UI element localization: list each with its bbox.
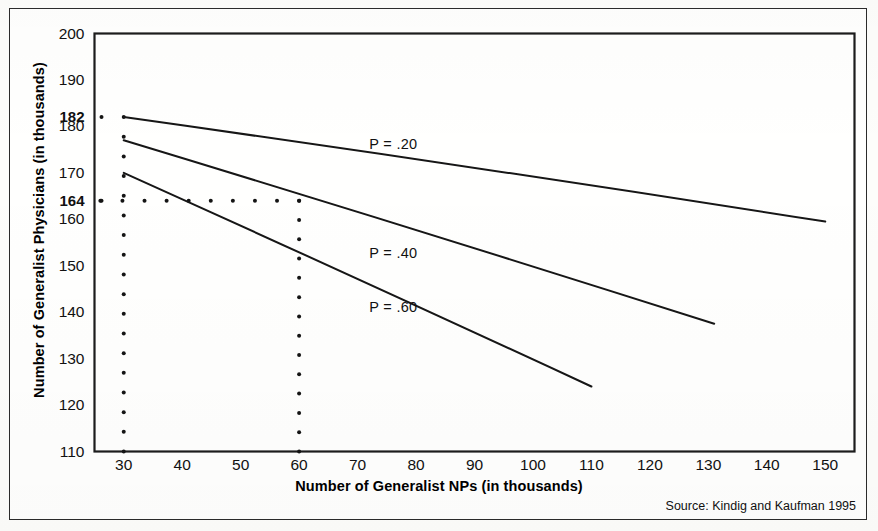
reference-dot-vertical-60 xyxy=(297,218,301,222)
reference-dot-vertical-30 xyxy=(122,194,126,198)
x-tick-label-50: 50 xyxy=(211,457,271,473)
reference-dot-vertical-60 xyxy=(297,237,301,241)
y-tick-label-170: 170 xyxy=(33,165,85,180)
reference-dot-vertical-30 xyxy=(122,371,126,375)
reference-dot-vertical-30 xyxy=(122,213,126,217)
x-tick-label-30: 30 xyxy=(94,457,154,473)
reference-dot-horizontal-164-outer xyxy=(100,199,104,203)
x-tick-label-100: 100 xyxy=(503,457,563,473)
trend-line-p-40 xyxy=(124,140,714,323)
reference-dot-vertical-30 xyxy=(122,233,126,237)
reference-dot-182-outer xyxy=(100,115,104,119)
x-tick-label-80: 80 xyxy=(386,457,446,473)
y-tick-label-200: 200 xyxy=(33,26,85,41)
x-tick-label-140: 140 xyxy=(737,457,797,473)
trend-line-p-20 xyxy=(124,117,826,222)
y-tick-label-160: 160 xyxy=(33,211,85,226)
reference-dot-horizontal-164 xyxy=(209,199,213,203)
reference-dot-vertical-60 xyxy=(297,295,301,299)
plot-frame xyxy=(95,34,855,452)
y-tick-label-164: 164 xyxy=(33,193,85,208)
reference-dot-vertical-30 xyxy=(122,390,126,394)
x-tick-label-130: 130 xyxy=(678,457,738,473)
trend-line-p-60 xyxy=(124,173,592,387)
reference-dot-vertical-60 xyxy=(297,372,301,376)
reference-dot-vertical-60 xyxy=(297,334,301,338)
y-tick-label-140: 140 xyxy=(33,304,85,319)
reference-dot-vertical-30 xyxy=(122,410,126,414)
reference-dot-vertical-30 xyxy=(122,272,126,276)
reference-dot-vertical-30 xyxy=(122,351,126,355)
y-tick-label-130: 130 xyxy=(33,351,85,366)
y-tick-label-150: 150 xyxy=(33,258,85,273)
reference-dot-vertical-60 xyxy=(297,257,301,261)
reference-dot-horizontal-164 xyxy=(165,199,169,203)
reference-dot-horizontal-164 xyxy=(231,199,235,203)
x-tick-label-90: 90 xyxy=(445,457,505,473)
reference-dot-vertical-30 xyxy=(122,450,126,454)
reference-dot-vertical-60 xyxy=(297,430,301,434)
curve-label-p-40: P = .40 xyxy=(369,245,417,261)
y-tick-label-190: 190 xyxy=(33,72,85,87)
reference-dot-vertical-30 xyxy=(122,135,126,139)
figure-container: Number of Generalist Physicians (in thou… xyxy=(0,0,878,531)
reference-dot-vertical-60 xyxy=(297,450,301,454)
y-tick-label-182: 182 xyxy=(33,109,85,124)
reference-dot-horizontal-164 xyxy=(253,199,257,203)
reference-dot-vertical-30 xyxy=(122,253,126,257)
reference-dot-vertical-30 xyxy=(122,154,126,158)
reference-dot-horizontal-164 xyxy=(275,199,279,203)
reference-dot-vertical-60 xyxy=(297,392,301,396)
reference-dot-vertical-30 xyxy=(122,312,126,316)
curve-label-p-60: P = .60 xyxy=(369,299,417,315)
reference-dot-horizontal-164 xyxy=(297,199,301,203)
curve-label-p-20: P = .20 xyxy=(369,136,417,152)
x-tick-label-40: 40 xyxy=(152,457,212,473)
reference-dot-vertical-60 xyxy=(297,314,301,318)
reference-dots-layer xyxy=(98,115,301,453)
reference-dot-vertical-30 xyxy=(122,331,126,335)
reference-dot-vertical-30 xyxy=(122,174,126,178)
x-axis-title: Number of Generalist NPs (in thousands) xyxy=(0,478,878,494)
y-tick-label-110: 110 xyxy=(33,444,85,459)
reference-dot-vertical-60 xyxy=(297,353,301,357)
x-tick-label-60: 60 xyxy=(269,457,329,473)
reference-dot-vertical-60 xyxy=(297,411,301,415)
source-note: Source: Kindig and Kaufman 1995 xyxy=(666,499,856,513)
x-tick-label-120: 120 xyxy=(620,457,680,473)
y-tick-label-120: 120 xyxy=(33,397,85,412)
x-tick-label-110: 110 xyxy=(561,457,621,473)
reference-dot-vertical-30 xyxy=(122,430,126,434)
reference-dot-horizontal-164 xyxy=(120,199,124,203)
x-tick-label-150: 150 xyxy=(795,457,855,473)
trend-curves-layer xyxy=(124,117,826,386)
reference-dot-horizontal-164 xyxy=(143,199,147,203)
x-tick-label-70: 70 xyxy=(328,457,388,473)
plot-area xyxy=(0,0,878,531)
reference-dot-vertical-30 xyxy=(122,292,126,296)
reference-dot-vertical-60 xyxy=(297,276,301,280)
